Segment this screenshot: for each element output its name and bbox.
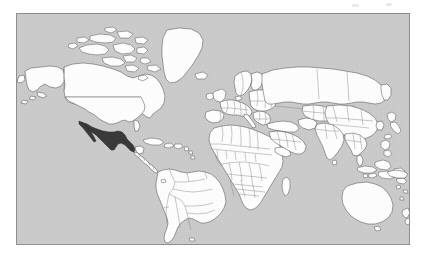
world-map-svg: .land { fill:#ffffff; stroke:#4a4a4a; st…	[17, 14, 409, 244]
map-frame: .land { fill:#ffffff; stroke:#4a4a4a; st…	[16, 13, 410, 245]
scan-artifact	[352, 4, 359, 7]
scan-artifact	[386, 3, 392, 6]
ocean-speck	[161, 179, 166, 183]
world-map-figure: .land { fill:#ffffff; stroke:#4a4a4a; st…	[0, 0, 424, 263]
